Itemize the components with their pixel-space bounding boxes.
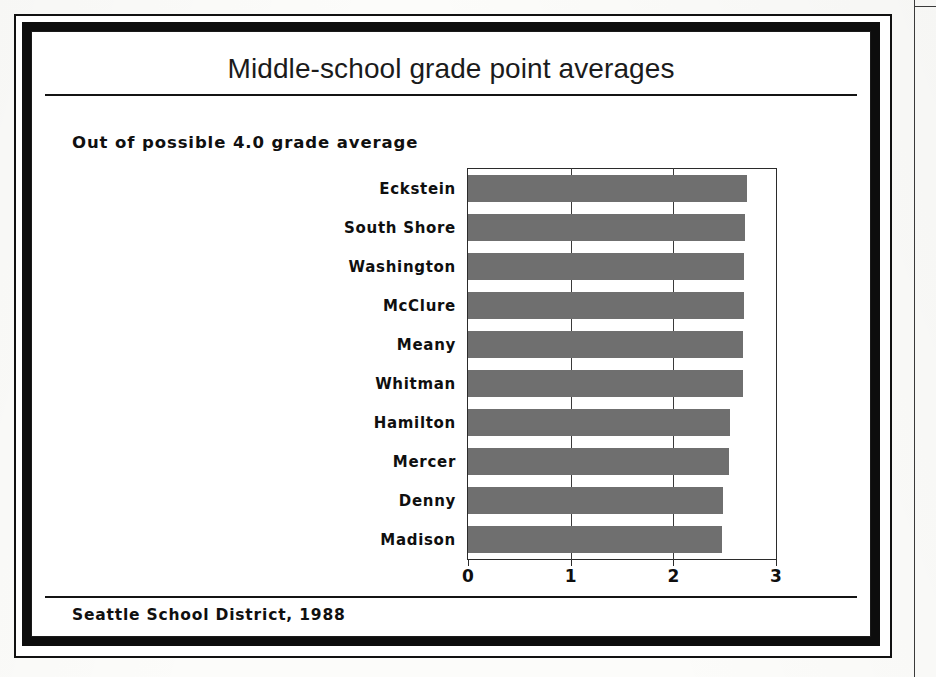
bar-chart: EcksteinSouth ShoreWashingtonMcClureMean… <box>0 0 936 677</box>
bar <box>468 448 729 475</box>
x-tick-label: 0 <box>448 566 488 586</box>
bar <box>468 487 723 514</box>
category-label: Hamilton <box>216 414 456 432</box>
bar-row <box>468 409 776 436</box>
bar <box>468 214 745 241</box>
bar-row <box>468 487 776 514</box>
source-divider <box>45 596 857 598</box>
bar-row <box>468 331 776 358</box>
source-caption: Seattle School District, 1988 <box>72 606 346 624</box>
category-label: Washington <box>216 258 456 276</box>
bar-row <box>468 175 776 202</box>
bar-row <box>468 292 776 319</box>
bar <box>468 370 743 397</box>
bar-row <box>468 526 776 553</box>
category-label: South Shore <box>216 219 456 237</box>
category-label: Mercer <box>216 453 456 471</box>
category-label: Meany <box>216 336 456 354</box>
bar-row <box>468 370 776 397</box>
bar <box>468 331 743 358</box>
category-label: McClure <box>216 297 456 315</box>
bar <box>468 409 730 436</box>
category-label: Eckstein <box>216 180 456 198</box>
bar <box>468 526 722 553</box>
x-tick-label: 3 <box>756 566 796 586</box>
bars-layer <box>468 169 776 559</box>
bar-row <box>468 253 776 280</box>
category-label: Denny <box>216 492 456 510</box>
bar <box>468 175 747 202</box>
bar <box>468 253 744 280</box>
bar-row <box>468 448 776 475</box>
x-tick-label: 2 <box>653 566 693 586</box>
bar-row <box>468 214 776 241</box>
category-label: Madison <box>216 531 456 549</box>
category-label: Whitman <box>216 375 456 393</box>
x-tick-label: 1 <box>551 566 591 586</box>
bar <box>468 292 744 319</box>
